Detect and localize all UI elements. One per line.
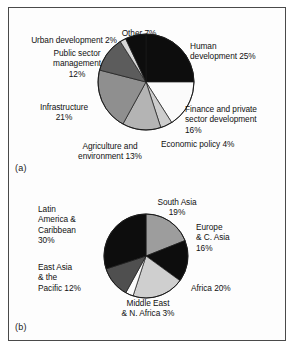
- label-economic-policy: Economic policy 4%: [161, 139, 265, 149]
- label-public-sector-management: Public sector management 12%: [31, 48, 123, 79]
- pie-b-graphic: [102, 212, 190, 300]
- label-agriculture-environment: Agriculture and environment 13%: [60, 141, 160, 162]
- panel-a-tag: (a): [15, 163, 27, 173]
- pie-b-svg: [102, 212, 190, 300]
- label-east-asia-pacific: East Asia & the Pacific 12%: [38, 262, 104, 293]
- label-africa: Africa 20%: [191, 283, 265, 293]
- pie-a-svg: [96, 32, 196, 132]
- label-human-development: Human development 25%: [190, 41, 286, 62]
- pie-slice-human_development: [146, 34, 194, 82]
- pie-chart-b: Latin America & Caribbean 30% East Asia …: [9, 180, 285, 342]
- label-middle-east-n-africa: Middle East & N. Africa 3%: [99, 298, 197, 319]
- label-south-asia: South Asia 19%: [140, 197, 214, 218]
- label-latin-america-caribbean: Latin America & Caribbean 30%: [38, 204, 104, 245]
- label-infrastructure: Infrastructure 21%: [21, 102, 107, 123]
- label-other: Other 7%: [111, 28, 167, 38]
- pie-chart-a: Urban development 2% Public sector manag…: [9, 8, 285, 183]
- figure-panel-container: Urban development 2% Public sector manag…: [8, 7, 286, 341]
- label-europe-c-asia: Europe & C. Asia 16%: [196, 222, 266, 253]
- label-finance-private-sector: Finance and private sector development 1…: [185, 104, 285, 135]
- panel-b-tag: (b): [15, 322, 27, 332]
- pie-a-graphic: [96, 32, 196, 132]
